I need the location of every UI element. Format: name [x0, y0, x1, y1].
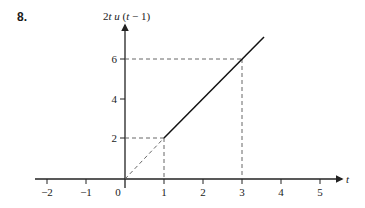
- x-ticks: [47, 179, 320, 184]
- svg-text:−2: −2: [41, 186, 53, 198]
- dashed-extension: [125, 138, 164, 179]
- function-line: [164, 37, 264, 138]
- svg-text:2: 2: [200, 186, 206, 198]
- svg-text:5: 5: [317, 186, 323, 198]
- svg-text:0: 0: [115, 186, 121, 198]
- y-axis-label: 2t u (t − 1): [103, 10, 151, 23]
- svg-text:2: 2: [112, 132, 118, 144]
- plot: 2t u (t − 1) t −2 −1 0 1 2 3 4 5 2 4 6: [0, 0, 365, 208]
- svg-text:1: 1: [161, 186, 167, 198]
- svg-text:−1: −1: [80, 186, 92, 198]
- y-tick-labels: 2 4 6: [112, 53, 118, 144]
- svg-text:6: 6: [112, 53, 118, 65]
- svg-text:3: 3: [239, 186, 245, 198]
- y-ticks: [120, 59, 125, 138]
- x-axis-label: t: [346, 173, 350, 185]
- x-tick-labels: −2 −1 0 1 2 3 4 5: [41, 186, 323, 198]
- svg-text:4: 4: [112, 93, 118, 105]
- svg-text:4: 4: [278, 186, 284, 198]
